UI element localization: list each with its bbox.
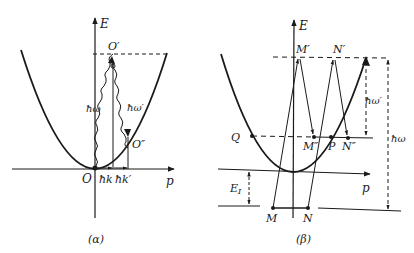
point-o-double-prime-label: O″ <box>132 138 146 151</box>
q-level-dashed <box>252 136 314 137</box>
momentum-k-prime-label: ħk′ <box>115 173 132 186</box>
photon-emitted-label: ħω′ <box>127 102 145 113</box>
caption-alpha: (α) <box>88 233 104 246</box>
transition-n-to-n-prime <box>308 60 333 208</box>
point-n-prime-label: N′ <box>332 43 346 56</box>
photon-absorbed-label: ħω <box>86 103 101 114</box>
point-m-prime-label: M′ <box>295 43 310 56</box>
panel-beta: E p M N EI Q M′ M″ N′ <box>218 19 406 246</box>
p-axis <box>218 169 370 174</box>
point-o-prime-label: O′ <box>108 40 120 53</box>
bottom-level-right <box>318 208 401 211</box>
point-p-label: P <box>327 140 336 153</box>
point-q-label: Q <box>231 131 240 144</box>
point-m-double-prime <box>312 135 316 139</box>
photon-emitted-wave <box>113 62 128 148</box>
top-level-dashed <box>273 57 388 58</box>
p-axis-label: p <box>362 181 370 195</box>
gap-label: EI <box>229 182 242 196</box>
point-m-double-prime-label: M″ <box>302 140 319 153</box>
origin-label: O <box>82 172 92 186</box>
point-q <box>250 134 254 138</box>
emitted-energy-label: ħω′ <box>365 95 383 106</box>
point-p <box>329 135 333 139</box>
point-n-double-prime-label: N″ <box>341 140 357 153</box>
transition-m-prime-to-m-double-prime <box>300 59 313 134</box>
point-origin <box>93 166 98 171</box>
p-axis-label: p <box>166 174 174 188</box>
point-n-label: N <box>302 212 313 225</box>
transition-m-to-m-prime <box>273 59 298 208</box>
absorbed-energy-label: ħω <box>391 133 406 144</box>
e-axis-label: E <box>99 17 109 31</box>
e-axis-label: E <box>298 19 308 33</box>
caption-beta: (β) <box>296 233 311 246</box>
e-axis <box>293 20 294 218</box>
panel-alpha: E p O O′ ħω ħω′ O″ ħk ħk′ (α) <box>12 17 174 246</box>
q-level-solid <box>314 137 373 138</box>
scattering-diagram: E p O O′ ħω ħω′ O″ ħk ħk′ (α) E <box>0 0 414 253</box>
point-m-label: M <box>265 212 278 225</box>
momentum-k-label: ħk <box>99 173 113 186</box>
